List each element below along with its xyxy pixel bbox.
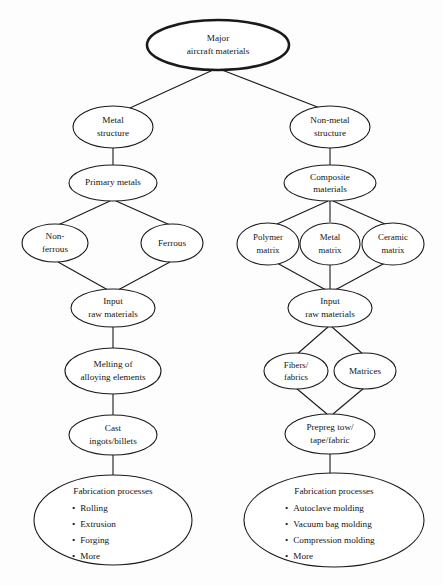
node-matrices[interactable]: Matrices xyxy=(334,353,396,389)
melting-label-line1: Melting of xyxy=(93,359,133,369)
non-ferrous-label-line2: ferrous xyxy=(42,244,68,254)
fabrication-right-item-2: Compression molding xyxy=(293,535,375,545)
bullet-glyph-l2: • xyxy=(72,535,75,545)
node-melting[interactable]: Melting of alloying elements xyxy=(65,348,161,394)
node-cast-ingots[interactable]: Cast ingots/billets xyxy=(69,415,157,455)
input-raw-right-ellipse xyxy=(288,289,372,327)
fabrication-left-item-1: Extrusion xyxy=(80,519,116,529)
root-ellipse xyxy=(147,20,289,70)
edge-composite-to-ceramic-matrix xyxy=(333,201,385,224)
edge-root-to-metal-structure xyxy=(130,70,213,108)
metal-structure-label-line2: structure xyxy=(97,128,129,138)
composite-materials-label-line2: materials xyxy=(313,184,347,194)
bullet-glyph-l3: • xyxy=(72,551,75,561)
melting-ellipse xyxy=(65,348,161,394)
composite-materials-label-line1: Composite xyxy=(310,172,350,182)
edge-root-to-nonmetal-structure xyxy=(222,70,320,108)
nonmetal-structure-label-line1: Non-metal xyxy=(310,115,350,125)
composite-materials-ellipse xyxy=(284,165,376,201)
primary-metals-label: Primary metals xyxy=(85,177,141,187)
metal-structure-label-line1: Metal xyxy=(102,115,124,125)
fabrication-right-bullet-1: •Vacuum bag molding xyxy=(285,519,372,529)
edge-ferrous-to-input-raw-left xyxy=(118,262,170,290)
node-fabrication-left[interactable]: Fabrication processes •Rolling •Extrusio… xyxy=(34,475,192,565)
edge-composite-to-polymer-matrix xyxy=(277,201,328,224)
node-metal-structure[interactable]: Metal structure xyxy=(73,106,153,148)
fabrication-right-bullet-0: •Autoclave molding xyxy=(285,503,364,513)
edge-input-raw-right-to-fibers xyxy=(296,327,328,355)
flowchart-diagram: Major aircraft materials Metal structure… xyxy=(0,0,443,585)
edge-input-raw-right-to-matrices xyxy=(332,327,364,355)
node-metal-matrix[interactable]: Metal matrix xyxy=(300,223,360,265)
nonmetal-structure-label-line2: structure xyxy=(314,128,346,138)
nonmetal-structure-ellipse xyxy=(290,106,370,148)
prepreg-label-line1: Prepreg tow/ xyxy=(306,422,354,432)
input-raw-left-ellipse xyxy=(71,289,155,327)
input-raw-right-label-line2: raw materials xyxy=(305,309,355,319)
fabrication-right-item-0: Autoclave molding xyxy=(293,503,364,513)
fabrication-right-item-1: Vacuum bag molding xyxy=(293,519,372,529)
fabrication-left-item-3: More xyxy=(80,551,100,561)
ceramic-matrix-label-line2: matrix xyxy=(382,245,406,255)
edge-non-ferrous-to-input-raw-left xyxy=(58,262,108,290)
input-raw-left-label-line1: Input xyxy=(103,296,123,306)
non-ferrous-ellipse xyxy=(22,224,88,262)
input-raw-right-label-line1: Input xyxy=(320,296,340,306)
node-root[interactable]: Major aircraft materials xyxy=(147,20,289,70)
bullet-glyph-r0: • xyxy=(285,503,288,513)
node-primary-metals[interactable]: Primary metals xyxy=(69,165,157,201)
cast-ingots-label-line2: ingots/billets xyxy=(89,436,137,446)
edge-ceramic-matrix-to-input-raw-right xyxy=(335,263,385,290)
node-prepreg[interactable]: Prepreg tow/ tape/fabric xyxy=(285,414,375,454)
input-raw-left-label-line2: raw materials xyxy=(88,309,138,319)
non-ferrous-label-line1: Non- xyxy=(46,231,65,241)
metal-structure-ellipse xyxy=(73,106,153,148)
metal-matrix-ellipse xyxy=(300,223,360,265)
fabrication-left-title: Fabrication processes xyxy=(73,486,153,496)
cast-ingots-ellipse xyxy=(69,415,157,455)
metal-matrix-label-line2: matrix xyxy=(319,245,343,255)
cast-ingots-label-line1: Cast xyxy=(105,423,122,433)
fabrication-left-item-2: Forging xyxy=(80,535,109,545)
polymer-matrix-label-line2: matrix xyxy=(257,245,281,255)
fabrication-right-item-3: More xyxy=(293,551,313,561)
node-non-ferrous[interactable]: Non- ferrous xyxy=(22,224,88,262)
fibers-fabrics-label-line1: Fibers/ xyxy=(284,360,309,370)
ferrous-label: Ferrous xyxy=(158,238,186,248)
bullet-glyph-l1: • xyxy=(72,519,75,529)
ceramic-matrix-ellipse xyxy=(362,223,424,265)
edge-primary-metals-to-non-ferrous xyxy=(58,201,110,225)
bullet-glyph-r2: • xyxy=(285,535,288,545)
node-input-raw-left[interactable]: Input raw materials xyxy=(71,289,155,327)
fibers-fabrics-ellipse xyxy=(264,353,328,389)
bullet-glyph-l0: • xyxy=(72,503,75,513)
prepreg-ellipse xyxy=(285,414,375,454)
ceramic-matrix-label-line1: Ceramic xyxy=(378,232,408,242)
bullet-glyph-r3: • xyxy=(285,551,288,561)
node-nonmetal-structure[interactable]: Non-metal structure xyxy=(290,106,370,148)
node-fabrication-right[interactable]: Fabrication processes •Autoclave molding… xyxy=(244,473,424,567)
node-ceramic-matrix[interactable]: Ceramic matrix xyxy=(362,223,424,265)
node-fibers-fabrics[interactable]: Fibers/ fabrics xyxy=(264,353,328,389)
matrices-label: Matrices xyxy=(349,366,382,376)
fabrication-right-title: Fabrication processes xyxy=(294,486,374,496)
prepreg-label-line2: tape/fabric xyxy=(310,435,349,445)
root-label-line2: aircraft materials xyxy=(187,46,250,56)
node-polymer-matrix[interactable]: Polymer matrix xyxy=(237,223,299,265)
edge-matrices-to-prepreg xyxy=(333,388,364,414)
fabrication-left-item-0: Rolling xyxy=(80,503,108,513)
bullet-glyph-r1: • xyxy=(285,519,288,529)
fabrication-right-bullet-2: •Compression molding xyxy=(285,535,375,545)
edge-primary-metals-to-ferrous xyxy=(116,201,170,225)
edge-fibers-to-prepreg xyxy=(296,388,327,414)
polymer-matrix-ellipse xyxy=(237,223,299,265)
root-label-line1: Major xyxy=(207,33,229,43)
node-input-raw-right[interactable]: Input raw materials xyxy=(288,289,372,327)
node-ferrous[interactable]: Ferrous xyxy=(141,224,203,262)
node-composite-materials[interactable]: Composite materials xyxy=(284,165,376,201)
polymer-matrix-label-line1: Polymer xyxy=(253,232,283,242)
melting-label-line2: alloying elements xyxy=(80,372,145,382)
metal-matrix-label-line1: Metal xyxy=(320,232,341,242)
edge-polymer-matrix-to-input-raw-right xyxy=(277,263,326,290)
fibers-fabrics-label-line2: fabrics xyxy=(284,372,309,382)
